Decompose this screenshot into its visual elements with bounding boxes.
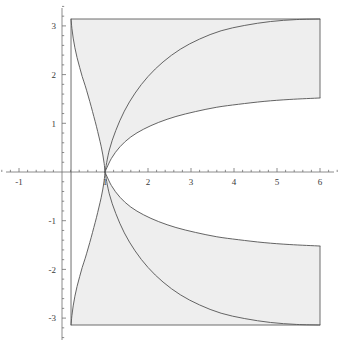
y-tick-label: 2 <box>52 70 57 80</box>
x-tick-label: 4 <box>232 177 237 187</box>
plot-canvas: -1123456-3-2-1123 <box>0 0 340 348</box>
y-tick-label: -3 <box>49 313 57 323</box>
y-tick-label: 3 <box>52 21 57 31</box>
x-tick-label: -1 <box>15 177 23 187</box>
x-tick-label: 2 <box>146 177 151 187</box>
y-tick-label: -2 <box>49 265 57 275</box>
upper-shaded-region <box>71 19 320 172</box>
x-tick-label: 1 <box>103 177 108 187</box>
x-tick-label: 6 <box>318 177 323 187</box>
y-tick-label: -1 <box>49 216 57 226</box>
plot-root: -1123456-3-2-1123 <box>0 0 340 348</box>
x-tick-label: 3 <box>189 177 194 187</box>
x-tick-label: 5 <box>275 177 280 187</box>
y-tick-label: 1 <box>52 119 57 129</box>
lower-shaded-region <box>71 172 320 325</box>
